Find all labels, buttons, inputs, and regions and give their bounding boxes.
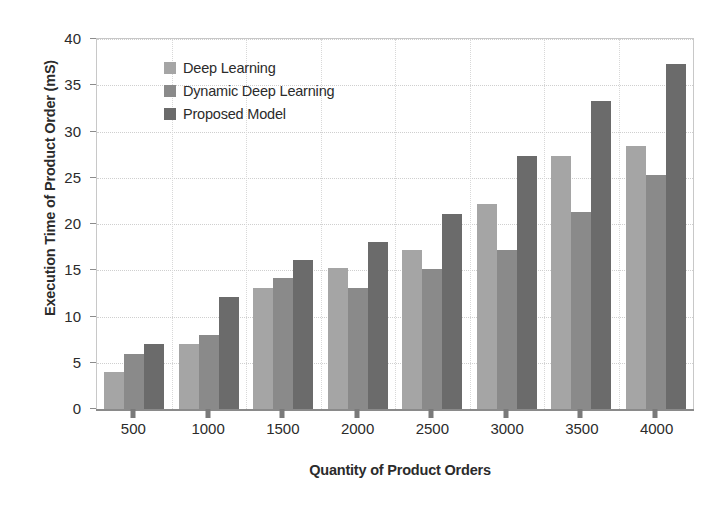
legend-label: Dynamic Deep Learning [183, 83, 334, 99]
y-tick-mark [90, 269, 96, 270]
legend-label: Proposed Model [183, 106, 286, 122]
bar-group [619, 39, 694, 409]
y-tick-label: 0 [21, 400, 81, 417]
bar [422, 269, 442, 409]
x-tick-label: 3000 [470, 420, 545, 446]
y-tick-label: 35 [21, 76, 81, 93]
x-tick-label: 4000 [619, 420, 694, 446]
x-axis-title: Quantity of Product Orders [90, 462, 710, 478]
y-tick-label: 15 [21, 261, 81, 278]
y-tick-mark [90, 131, 96, 132]
y-tick-mark [90, 84, 96, 85]
x-tick-mark [503, 409, 508, 418]
bar [253, 288, 273, 409]
bar [551, 156, 571, 409]
y-tick-mark [90, 38, 96, 39]
bar [442, 214, 462, 409]
bar [646, 175, 666, 409]
y-tick-label: 20 [21, 215, 81, 232]
bar [124, 354, 144, 410]
bar [497, 250, 517, 409]
x-tick-label: 500 [96, 420, 171, 446]
x-tick-mark [652, 409, 657, 418]
bar-group [97, 39, 172, 409]
bar [144, 344, 164, 409]
bar [293, 260, 313, 409]
y-tick-label: 40 [21, 30, 81, 47]
bar [571, 212, 591, 409]
legend-item: Dynamic Deep Learning [164, 83, 334, 99]
bar [104, 372, 124, 409]
x-tick-label: 1000 [171, 420, 246, 446]
y-tick-mark [90, 223, 96, 224]
bar [348, 288, 368, 409]
legend-swatch-icon [164, 108, 176, 120]
bar [477, 204, 497, 409]
x-tick-mark [578, 409, 583, 418]
bar-group [470, 39, 545, 409]
y-tick-label: 30 [21, 122, 81, 139]
x-tick-label: 2500 [395, 420, 470, 446]
bar [591, 101, 611, 409]
bar-group [395, 39, 470, 409]
bar [219, 297, 239, 409]
x-tick-label: 1500 [246, 420, 321, 446]
y-tick-label: 10 [21, 307, 81, 324]
y-axis-title: Execution Time of Product Order (mS) [42, 0, 58, 388]
bar [402, 250, 422, 409]
x-tick-mark [280, 409, 285, 418]
bar [666, 64, 686, 409]
bar-group [544, 39, 619, 409]
y-tick-mark [90, 316, 96, 317]
bar [626, 146, 646, 409]
x-tick-label: 2000 [320, 420, 395, 446]
x-tick-mark [429, 409, 434, 418]
bar [368, 242, 388, 409]
bar [179, 344, 199, 409]
legend-item: Proposed Model [164, 106, 334, 122]
legend-item: Deep Learning [164, 60, 334, 76]
bar [328, 268, 348, 409]
bar-chart-figure: Execution Time of Product Order (mS) 051… [0, 0, 721, 509]
bar [199, 335, 219, 409]
legend: Deep LearningDynamic Deep LearningPropos… [164, 60, 334, 122]
legend-label: Deep Learning [183, 60, 276, 76]
bar [517, 156, 537, 409]
x-tick-mark [131, 409, 136, 418]
y-tick-label: 5 [21, 353, 81, 370]
y-tick-mark [90, 362, 96, 363]
x-tick-mark [354, 409, 359, 418]
y-tick-label: 25 [21, 168, 81, 185]
bar [273, 278, 293, 409]
legend-swatch-icon [164, 62, 176, 74]
x-tick-label: 3500 [545, 420, 620, 446]
y-tick-mark [90, 177, 96, 178]
legend-swatch-icon [164, 85, 176, 97]
x-axis-tick-labels: 5001000150020002500300035004000 [96, 420, 694, 446]
x-tick-mark [205, 409, 210, 418]
